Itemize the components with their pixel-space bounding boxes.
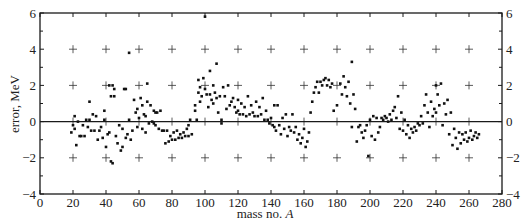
data-point [224,95,227,98]
data-point [407,124,410,127]
data-point [422,122,425,125]
data-point [433,108,436,111]
data-point [298,133,301,136]
data-point [103,109,106,112]
data-point [257,115,260,118]
data-point [139,97,142,100]
data-point [212,102,215,105]
data-point [156,111,159,114]
data-point [436,93,439,96]
data-point [354,108,357,111]
data-point [263,118,266,121]
data-point [174,138,177,141]
data-point [403,118,406,121]
data-point [128,52,131,55]
data-point [456,147,459,150]
data-point [111,162,114,165]
data-point [365,124,368,127]
data-point [273,126,276,129]
data-point [207,106,210,109]
data-point [105,146,108,149]
data-point [113,95,116,98]
data-point [372,115,375,118]
data-point [440,82,443,85]
data-point [133,99,136,102]
data-point [430,100,433,103]
data-point [382,118,385,121]
data-point [296,138,299,141]
y-tick-label-left: −2 [22,150,36,165]
data-point [319,80,322,83]
data-point [149,104,152,107]
data-point [435,111,438,114]
data-point [331,82,334,85]
data-point [108,131,111,134]
data-point [103,118,106,121]
data-point [418,124,421,127]
y-axis-label: error, MeV [7,74,22,133]
data-point [205,93,208,96]
data-point [313,91,316,94]
data-point [438,104,441,107]
data-point [270,117,273,120]
data-point [281,117,284,120]
data-point [285,113,288,116]
data-point [397,95,400,98]
data-point [247,95,250,98]
data-point [88,118,91,121]
data-point [431,115,434,118]
data-point [351,61,354,64]
data-point [176,129,179,132]
data-point [222,86,225,89]
x-tick-label: 60 [133,195,146,210]
data-point [227,84,230,87]
data-point [136,108,139,111]
data-point [327,79,330,82]
data-point [412,131,415,134]
plot-frame [40,13,502,194]
data-point [294,126,297,129]
y-tick-label-right: 6 [506,6,513,21]
data-point [194,104,197,107]
data-point [402,129,405,132]
data-point [148,122,151,125]
data-point [318,91,321,94]
data-point [116,142,119,145]
data-point [141,104,144,107]
data-point [110,95,113,98]
data-point [100,126,103,129]
data-point [108,84,111,87]
y-tick-label-left: 2 [30,78,37,93]
data-point [243,106,246,109]
data-point [87,126,90,129]
y-tick-label-left: 6 [30,6,37,21]
data-point [131,129,134,132]
y-tick-label-right: 2 [506,78,513,93]
data-point [237,99,240,102]
data-point [308,131,311,134]
data-point [367,155,370,158]
data-point [158,128,161,131]
data-point [473,135,476,138]
data-point [341,93,344,96]
data-point [197,91,200,94]
data-point [189,118,192,121]
y-tick-label-right: −4 [506,187,520,202]
data-point [290,129,293,132]
data-point [395,117,398,120]
data-point [194,109,197,112]
data-point [93,129,96,132]
data-point [250,104,253,107]
y-tick-label-right: −2 [506,150,520,165]
data-point [162,129,165,132]
data-point [82,124,85,127]
data-point [253,115,256,118]
x-tick-label: 260 [459,195,479,210]
data-point [389,113,392,116]
data-point [172,131,175,134]
data-point [212,84,215,87]
data-point [265,109,268,112]
data-point [324,77,327,80]
data-point [314,86,317,89]
data-point [379,126,382,129]
